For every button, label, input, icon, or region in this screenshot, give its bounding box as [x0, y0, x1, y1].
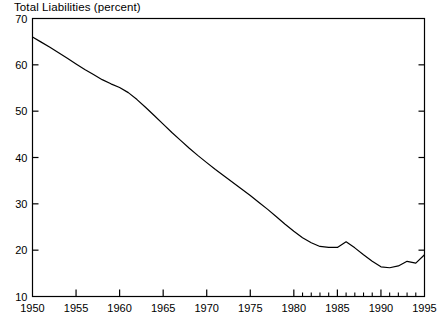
- x-tick-label: 1950: [20, 302, 44, 314]
- x-tick-label: 1980: [282, 302, 306, 314]
- y-tick-label: 50: [15, 105, 27, 117]
- y-tick-label: 30: [15, 198, 27, 210]
- chart-figure: Total Liabilities (percent) 102030405060…: [0, 0, 437, 319]
- x-tick-label: 1970: [194, 302, 218, 314]
- line-chart-plot: 1020304050607019501955196019651970197519…: [0, 0, 437, 319]
- y-tick-label: 20: [15, 244, 27, 256]
- series-line: [33, 37, 425, 268]
- x-tick-label: 1995: [412, 302, 436, 314]
- y-tick-label: 40: [15, 152, 27, 164]
- x-tick-label: 1975: [238, 302, 262, 314]
- x-tick-label: 1990: [369, 302, 393, 314]
- x-tick-label: 1955: [64, 302, 88, 314]
- y-tick-label: 70: [15, 13, 27, 25]
- tick-labels: 1020304050607019501955196019651970197519…: [15, 13, 436, 314]
- x-tick-label: 1985: [325, 302, 349, 314]
- x-tick-label: 1965: [151, 302, 175, 314]
- tick-marks: [33, 65, 425, 297]
- axes: [33, 19, 425, 297]
- data-series: [33, 37, 425, 268]
- y-tick-label: 60: [15, 59, 27, 71]
- x-tick-label: 1960: [107, 302, 131, 314]
